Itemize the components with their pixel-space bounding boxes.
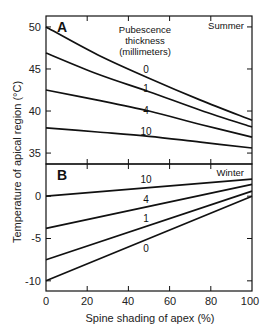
ytick-b-neg5: -5 [31,232,41,244]
xtick-40: 40 [122,295,134,307]
curve-b-0mm [46,196,252,281]
xtick-0: 0 [43,295,49,307]
panel-b-curves [46,179,252,281]
curve-label-b-0: 0 [143,243,149,254]
ytick-b-0: 0 [35,190,41,202]
curve-a-1mm [46,53,252,127]
chart-figure: A B Summer Winter Pubescence thickness (… [0,0,270,330]
season-summer-label: Summer [208,20,244,31]
curve-label-a-10: 10 [140,126,152,137]
curve-label-a-4: 4 [143,105,149,116]
curve-label-b-10: 10 [140,174,152,185]
legend-title-line1: Pubescence [119,24,171,35]
panel-b-letter: B [57,167,67,183]
xtick-80: 80 [205,295,217,307]
ytick-b-neg10: -10 [25,275,41,287]
legend-title-line2: thickness [125,35,165,46]
x-axis-label: Spine shading of apex (%) [85,312,214,324]
ytick-a-35: 35 [29,147,41,159]
curve-label-a-0: 0 [143,64,149,75]
season-winter-label: Winter [217,167,244,178]
ytick-a-40: 40 [29,105,41,117]
panel-a-letter: A [57,19,67,35]
ytick-a-50: 50 [29,21,41,33]
ytick-a-45: 45 [29,63,41,75]
curve-label-b-4: 4 [143,194,149,205]
xtick-100: 100 [241,295,259,307]
curve-b-1mm [46,191,252,260]
curve-label-a-1: 1 [143,83,149,94]
legend-title-line3: (millimeters) [119,46,171,57]
xtick-20: 20 [81,295,93,307]
xtick-60: 60 [164,295,176,307]
curve-label-b-1: 1 [143,213,149,224]
y-axis-label: Temperature of apical region (°C) [11,81,23,243]
curve-b-4mm [46,184,252,228]
